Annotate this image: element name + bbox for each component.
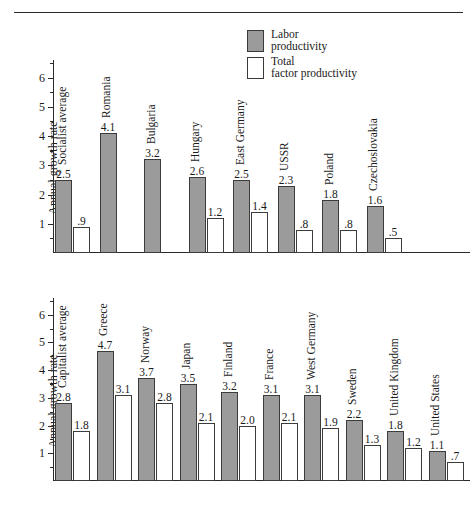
- bar-group: 2.81.8Capitalist average: [53, 298, 95, 481]
- bar-labor-productivity: 2.2: [346, 420, 363, 481]
- chart-capitalist-countries: Annual growth rate 123456 2.81.8Capitali…: [0, 298, 475, 503]
- bar-value-label: .8: [300, 218, 309, 231]
- y-tick-label: 2: [29, 418, 45, 433]
- header-divider-rule: [14, 12, 463, 13]
- bar-value-label: 3.1: [116, 383, 130, 396]
- bar-value-label: 2.1: [199, 411, 213, 424]
- bar-labor-productivity: 2.6: [189, 177, 206, 253]
- category-label: Finland: [222, 342, 234, 377]
- bar-value-label: 1.8: [323, 188, 337, 201]
- y-tick-label: 1: [29, 216, 45, 231]
- bar-group: 2.3.8USSR: [276, 60, 321, 253]
- category-label: Sweden: [346, 369, 358, 405]
- bar-value-label: 4.1: [101, 121, 115, 134]
- chart-socialist-countries: Annual growth rate 123456 2.5.9Socialist…: [0, 60, 475, 275]
- legend-label-line2: productivity: [271, 41, 327, 53]
- legend-label: Laborproductivity: [271, 29, 327, 52]
- category-label: East Germany: [234, 99, 246, 164]
- bar-labor-productivity: 2.8: [55, 403, 72, 481]
- bar-labor-productivity: 3.2: [221, 392, 238, 481]
- bar-total-factor-productivity: 1.4: [251, 212, 268, 253]
- bar-total-factor-productivity: .5: [385, 238, 402, 253]
- bar-value-label: 3.2: [222, 380, 236, 393]
- bar-total-factor-productivity: 3.1: [115, 395, 132, 481]
- bar-value-label: 3.1: [264, 383, 278, 396]
- bar-value-label: .9: [77, 215, 86, 228]
- bar-labor-productivity: 1.1: [429, 451, 446, 482]
- bar-value-label: 1.6: [368, 194, 382, 207]
- bar-labor-productivity: 2.3: [278, 186, 295, 253]
- bar-value-label: 3.5: [181, 372, 195, 385]
- legend-label-line1: Labor: [271, 29, 327, 41]
- gray-swatch-icon: [247, 30, 264, 52]
- bar-group: 3.11.9West Germany: [302, 298, 344, 481]
- bar-labor-productivity: 3.7: [138, 378, 155, 481]
- bar-group: 3.72.8Norway: [136, 298, 178, 481]
- y-tick-label: 4: [29, 363, 45, 378]
- bar-value-label: 1.9: [323, 416, 337, 429]
- bar-group: 2.61.2Hungary: [187, 60, 232, 253]
- bar-total-factor-productivity: 2.8: [156, 403, 173, 481]
- bar-value-label: 3.7: [139, 366, 153, 379]
- bar-group: 3.22.0Finland: [219, 298, 261, 481]
- bar-total-factor-productivity: 2.1: [281, 423, 298, 481]
- bar-value-label: .7: [451, 450, 460, 463]
- bar-labor-productivity: 3.2: [144, 159, 161, 253]
- y-tick-label: 2: [29, 187, 45, 202]
- bar-total-factor-productivity: .7: [447, 462, 464, 481]
- bar-group: 2.21.3Sweden: [344, 298, 386, 481]
- category-label: West Germany: [305, 312, 317, 380]
- bar-value-label: 2.2: [347, 408, 361, 421]
- bar-value-label: 3.1: [305, 383, 319, 396]
- category-label: Norway: [139, 326, 151, 363]
- category-label: Poland: [323, 153, 335, 185]
- bar-labor-productivity: 4.1: [100, 133, 117, 253]
- bar-labor-productivity: 3.1: [304, 395, 321, 481]
- bar-groups: 2.81.8Capitalist average4.73.1Greece3.72…: [53, 298, 470, 481]
- y-tick-label: 6: [29, 307, 45, 322]
- bar-value-label: 2.8: [157, 391, 171, 404]
- bar-value-label: .5: [389, 226, 398, 239]
- bar-total-factor-productivity: .8: [296, 230, 313, 253]
- category-label: United States: [429, 374, 441, 436]
- figure-page: LaborproductivityTotalfactor productivit…: [0, 0, 475, 522]
- bar-total-factor-productivity: 1.9: [322, 428, 339, 481]
- bar-value-label: 1.3: [365, 433, 379, 446]
- bar-value-label: 1.2: [406, 436, 420, 449]
- bar-labor-productivity: 1.8: [322, 200, 339, 253]
- bar-value-label: 1.8: [74, 419, 88, 432]
- bar-value-label: .8: [344, 218, 353, 231]
- bar-total-factor-productivity: .8: [340, 230, 357, 253]
- bar-labor-productivity: 1.6: [367, 206, 384, 253]
- category-label: United Kingdom: [388, 338, 400, 416]
- category-label: Hungary: [189, 122, 201, 162]
- bar-total-factor-productivity: .9: [73, 227, 90, 253]
- bar-total-factor-productivity: 1.8: [73, 431, 90, 481]
- bar-value-label: 2.0: [240, 414, 254, 427]
- bar-total-factor-productivity: 2.0: [239, 426, 256, 481]
- bar-value-label: 2.8: [56, 391, 70, 404]
- y-tick-label: 5: [29, 99, 45, 114]
- bar-value-label: 2.1: [282, 411, 296, 424]
- category-label: Greece: [97, 303, 109, 336]
- y-tick-label: 6: [29, 70, 45, 85]
- y-tick-label: 4: [29, 129, 45, 144]
- plot-area: 123456 2.81.8Capitalist average4.73.1Gre…: [53, 298, 470, 481]
- bar-group: 1.81.2United Kingdom: [385, 298, 427, 481]
- legend-item: Laborproductivity: [247, 29, 437, 52]
- bar-group: 1.1.7United States: [427, 298, 469, 481]
- bar-group: 1.6.5Czechoslovakia: [365, 60, 410, 253]
- bar-total-factor-productivity: 1.2: [207, 218, 224, 253]
- plot-area: 123456 2.5.9Socialist average4.1Romania3…: [53, 60, 470, 253]
- bar-value-label: 1.1: [430, 439, 444, 452]
- bar-group: 2.51.4East Germany: [231, 60, 276, 253]
- bar-value-label: 1.2: [208, 206, 222, 219]
- bar-labor-productivity: 3.5: [180, 384, 197, 481]
- bar-value-label: 2.6: [190, 165, 204, 178]
- y-tick-label: 5: [29, 335, 45, 350]
- bar-group: 4.1Romania: [98, 60, 143, 253]
- bar-total-factor-productivity: 1.3: [364, 445, 381, 481]
- bar-value-label: 2.5: [56, 168, 70, 181]
- bar-group: 3.52.1Japan: [178, 298, 220, 481]
- bar-group: 3.12.1France: [261, 298, 303, 481]
